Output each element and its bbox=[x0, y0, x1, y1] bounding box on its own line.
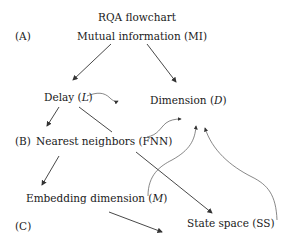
node-delay: Delay (L) bbox=[44, 92, 93, 103]
arrow-delay-to-fnn bbox=[47, 107, 59, 126]
arrow-mi-to-delay bbox=[73, 44, 111, 80]
stage-label-b: (B) bbox=[15, 136, 31, 147]
node-embedding-dimension: Embedding dimension (M) bbox=[26, 193, 167, 204]
node-dimension: Dimension (D) bbox=[150, 95, 227, 106]
stage-label-a: (A) bbox=[15, 31, 31, 42]
node-state-space: State space (SS) bbox=[187, 218, 275, 229]
chart-title: RQA flowchart bbox=[98, 12, 176, 23]
arrow-mi-to-dimension bbox=[147, 44, 176, 82]
arrow-embedding-to-statespace bbox=[109, 212, 162, 232]
stage-label-c: (C) bbox=[15, 221, 31, 232]
arrow-fnn-to-embedding bbox=[42, 156, 59, 185]
node-mutual-information: Mutual information (MI) bbox=[77, 31, 207, 42]
arrow-delay-to-fnn-right bbox=[79, 107, 112, 132]
curve-statespace-to-dimension bbox=[205, 128, 277, 220]
node-nearest-neighbors: Nearest neighbors (FNN) bbox=[36, 136, 172, 147]
